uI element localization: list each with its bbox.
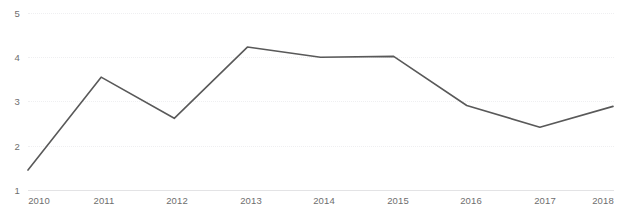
y-axis-tick-labels: 5 4 3 2 1 <box>0 0 20 216</box>
x-tick-label-2016: 2016 <box>460 196 482 206</box>
plot-area: 5 4 3 2 1 2010 2011 2012 2013 2014 2015 … <box>0 0 618 216</box>
x-tick-label-2018: 2018 <box>592 196 614 206</box>
y-tick-label-2: 2 <box>6 142 20 152</box>
x-tick-label-2012: 2012 <box>166 196 188 206</box>
x-tick-label-2015: 2015 <box>387 196 409 206</box>
y-tick-label-4: 4 <box>6 53 20 63</box>
series-line-1 <box>28 47 613 170</box>
y-tick-label-3: 3 <box>6 97 20 107</box>
x-tick-label-2017: 2017 <box>534 196 556 206</box>
series-line-chart-svg <box>0 0 618 216</box>
y-tick-label-1: 1 <box>6 186 20 196</box>
x-tick-label-2011: 2011 <box>94 196 115 206</box>
y-tick-label-5: 5 <box>6 9 20 19</box>
line-chart: 5 4 3 2 1 2010 2011 2012 2013 2014 2015 … <box>0 0 618 216</box>
x-tick-label-2014: 2014 <box>313 196 335 206</box>
x-tick-label-2013: 2013 <box>240 196 262 206</box>
x-tick-label-2010: 2010 <box>28 196 50 206</box>
